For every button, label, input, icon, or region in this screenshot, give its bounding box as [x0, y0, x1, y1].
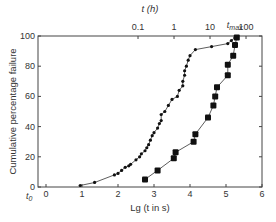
- dot-marker: [181, 80, 184, 83]
- dot-marker: [138, 155, 141, 158]
- dot-marker: [160, 119, 163, 122]
- square-marker: [192, 131, 198, 137]
- y-tick-label: 100: [20, 31, 35, 41]
- fit-curves: [80, 38, 237, 186]
- dot-marker: [124, 166, 127, 169]
- chart: 01234560204060801000.1110100Lg (t in s)t…: [0, 0, 276, 222]
- y-tick-label: 60: [25, 91, 35, 101]
- x-tick-label: 6: [259, 189, 264, 199]
- top-tick-label: 10: [205, 22, 215, 32]
- dot-marker: [163, 110, 166, 113]
- dot-marker: [120, 169, 123, 172]
- data-points: [79, 35, 240, 188]
- square-marker: [232, 42, 238, 48]
- t0-annotation: t0: [26, 191, 33, 202]
- x-axis-title: Lg (t in s): [130, 202, 170, 213]
- top-axis-title: t (h): [142, 3, 159, 14]
- dot-marker: [230, 39, 233, 42]
- x-tick-label: 2: [115, 189, 120, 199]
- dot-marker: [183, 69, 186, 72]
- plot-border: [38, 36, 262, 187]
- dot-marker: [93, 181, 96, 184]
- dot-marker: [158, 122, 161, 125]
- square-marker: [225, 62, 231, 68]
- dot-marker: [79, 184, 82, 187]
- dot-marker: [116, 172, 119, 175]
- y-tick-label: 20: [25, 152, 35, 162]
- top-tick-label: 1: [172, 22, 177, 32]
- dot-marker: [152, 131, 155, 134]
- dot-marker: [113, 173, 116, 176]
- square-marker: [234, 35, 240, 41]
- dot-marker: [143, 149, 146, 152]
- dot-marker: [140, 152, 143, 155]
- square-marker: [225, 72, 231, 78]
- square-marker: [171, 155, 177, 161]
- dot-marker: [181, 84, 184, 87]
- x-tick-label: 5: [223, 189, 228, 199]
- dot-marker: [210, 45, 213, 48]
- dot-marker: [185, 65, 188, 68]
- square-marker: [191, 139, 197, 145]
- dot-marker: [129, 163, 132, 166]
- square-marker: [210, 102, 216, 108]
- dot-marker: [188, 54, 191, 57]
- y-tick-label: 40: [25, 122, 35, 132]
- top-tick-label: 0.1: [132, 22, 145, 32]
- fit-curve-2: [145, 38, 237, 180]
- y-axis-title: Cumulative percentage failure: [7, 48, 18, 174]
- square-marker: [142, 176, 148, 182]
- dot-marker: [149, 139, 152, 142]
- x-tick-label: 3: [151, 189, 156, 199]
- plot-frame: [38, 36, 262, 187]
- x-tick-label: 4: [187, 189, 192, 199]
- y-tick-label: 80: [25, 61, 35, 71]
- square-marker: [230, 53, 236, 59]
- dot-marker: [167, 104, 170, 107]
- x-tick-label: 1: [79, 189, 84, 199]
- dot-marker: [226, 42, 229, 45]
- dot-marker: [183, 74, 186, 77]
- fit-curve-1: [80, 38, 235, 186]
- dot-marker: [160, 113, 163, 116]
- x-tick-label: 0: [43, 189, 48, 199]
- square-marker: [205, 115, 211, 121]
- dot-marker: [176, 95, 179, 98]
- dot-marker: [187, 59, 190, 62]
- dot-marker: [134, 158, 137, 161]
- dot-marker: [170, 98, 173, 101]
- dot-marker: [145, 146, 148, 149]
- dot-marker: [151, 134, 154, 137]
- square-marker: [212, 93, 218, 99]
- square-marker: [214, 84, 220, 90]
- dot-marker: [147, 143, 150, 146]
- dot-marker: [178, 89, 181, 92]
- square-marker: [155, 167, 161, 173]
- axis-labels: 01234560204060801000.1110100Lg (t in s)t…: [7, 3, 265, 213]
- square-marker: [173, 149, 179, 155]
- dot-marker: [194, 48, 197, 51]
- dot-marker: [156, 127, 159, 130]
- y-tick-label: 0: [30, 182, 35, 192]
